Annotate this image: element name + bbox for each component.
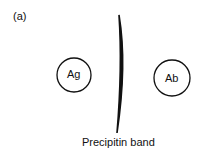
antibody-well-label: Ab bbox=[165, 72, 178, 84]
panel-label: (a) bbox=[13, 10, 26, 22]
antigen-well-label: Ag bbox=[67, 68, 80, 80]
precipitin-band bbox=[117, 15, 123, 133]
precipitin-band-label: Precipitin band bbox=[82, 136, 155, 148]
